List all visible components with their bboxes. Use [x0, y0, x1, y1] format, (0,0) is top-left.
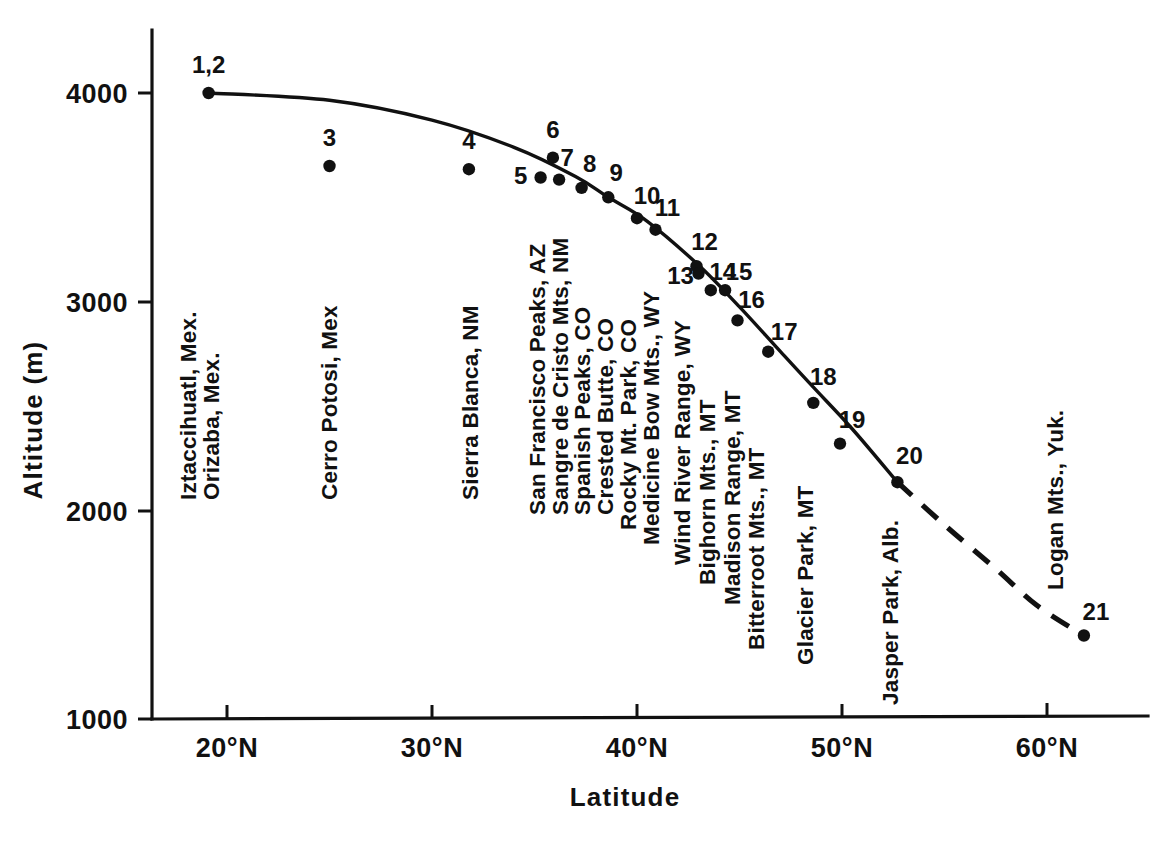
point-marker: [323, 160, 335, 172]
point-marker: [719, 284, 731, 296]
y-axis-tick-labels: 4000 3000 2000 1000: [66, 79, 128, 735]
point-marker: [705, 284, 717, 296]
chart-svg: Altitude (m) Latitude 4000 3000 2000 100…: [0, 0, 1164, 844]
data-point-9: 9: [602, 159, 623, 203]
x-axis-line: [152, 716, 1148, 719]
site-label: Bitterroot Mts., MT: [744, 447, 769, 650]
data-point-21: 21: [1078, 598, 1110, 642]
point-number-label: 15: [726, 258, 753, 285]
point-marker: [834, 437, 846, 449]
y-ticklabel-3000: 3000: [66, 288, 128, 318]
site-label: Spanish Peaks, CO: [570, 307, 595, 515]
x-ticklabel-20N: 20°N: [196, 733, 258, 763]
point-marker: [762, 346, 774, 358]
y-axis-ticks: [138, 93, 152, 719]
point-marker: [547, 152, 559, 164]
point-number-label: 13: [667, 262, 694, 289]
site-labels-layer: Iztaccihuatl, Mex.Orizaba, Mex.Cerro Pot…: [176, 238, 1068, 705]
point-marker: [1078, 629, 1090, 641]
y-ticklabel-4000: 4000: [66, 79, 128, 109]
site-label: Cerro Potosi, Mex: [317, 305, 342, 500]
point-marker: [631, 212, 643, 224]
point-number-label: 17: [771, 318, 798, 345]
x-ticklabel-40N: 40°N: [606, 733, 668, 763]
site-label: Logan Mts., Yuk.: [1043, 410, 1068, 590]
point-marker: [463, 163, 475, 175]
point-marker: [534, 171, 546, 183]
treeline-altitude-latitude-chart: Altitude (m) Latitude 4000 3000 2000 100…: [0, 0, 1164, 844]
y-ticklabel-2000: 2000: [66, 497, 128, 527]
point-number-label: 11: [655, 194, 680, 221]
point-marker: [692, 267, 704, 279]
point-number-label: 5: [514, 162, 527, 189]
point-number-label: 8: [583, 150, 596, 177]
data-point-16: 16: [731, 286, 765, 326]
x-ticklabel-60N: 60°N: [1016, 733, 1078, 763]
data-point-20: 20: [891, 442, 923, 488]
point-marker: [891, 476, 903, 488]
point-number-label: 4: [462, 127, 476, 154]
y-axis-title-text: Altitude (m): [18, 341, 48, 500]
point-number-label: 19: [839, 406, 866, 433]
data-point-3: 3: [323, 124, 336, 172]
x-ticklabel-50N: 50°N: [811, 733, 873, 763]
site-label: Bighorn Mts., MT: [695, 399, 720, 585]
site-label: Medicine Bow Mts., WY: [639, 291, 664, 545]
point-number-label: 20: [896, 442, 923, 469]
site-label: San Francisco Peaks, AZ: [525, 244, 550, 515]
data-point-18: 18: [807, 363, 837, 409]
data-point-19: 19: [834, 406, 866, 450]
point-number-label: 6: [546, 116, 559, 143]
data-point-11: 11: [649, 194, 680, 236]
site-label: Madison Range, MT: [720, 390, 745, 605]
data-point-5: 5: [514, 162, 547, 189]
point-marker: [602, 191, 614, 203]
site-label: Wind River Range, WY: [670, 320, 695, 565]
y-ticklabel-1000: 1000: [66, 705, 128, 735]
site-label: Glacier Park, MT: [793, 485, 818, 665]
x-ticklabel-30N: 30°N: [401, 733, 463, 763]
x-axis-tick-labels: 20°N 30°N 40°N 50°N 60°N: [196, 733, 1078, 763]
point-number-label: 9: [610, 159, 623, 186]
point-marker: [553, 173, 565, 185]
point-number-label: 12: [691, 228, 718, 255]
point-number-label: 16: [738, 286, 765, 313]
point-marker: [649, 224, 661, 236]
site-label: Crested Butte, CO: [593, 318, 618, 515]
point-number-label: 18: [810, 363, 837, 390]
point-number-label: 21: [1083, 598, 1110, 625]
point-marker: [575, 182, 587, 194]
site-label: Iztaccihuatl, Mex.: [176, 311, 201, 500]
x-axis-title-text: Latitude: [570, 782, 681, 812]
point-number-label: 7: [560, 144, 573, 171]
site-label: Orizaba, Mex.: [199, 352, 224, 500]
point-marker: [731, 314, 743, 326]
data-point-4: 4: [462, 127, 476, 175]
site-label: Jasper Park, Alb.: [878, 520, 903, 705]
point-marker: [202, 87, 214, 99]
site-label: Sierra Blanca, NM: [458, 305, 483, 500]
site-label: Rocky Mt. Park, CO: [616, 319, 641, 530]
point-marker: [807, 397, 819, 409]
y-axis-title: Altitude (m): [18, 341, 48, 500]
data-point-6: 6: [546, 116, 559, 164]
point-number-label: 3: [323, 124, 336, 151]
point-number-label: 1,2: [192, 51, 225, 78]
